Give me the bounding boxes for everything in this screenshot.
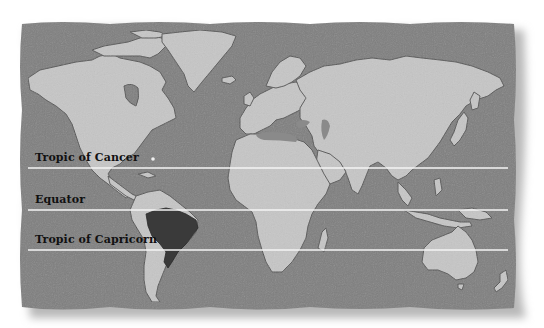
- equator-label: Equator: [35, 193, 85, 206]
- world-map-graphic: [0, 0, 544, 328]
- tropic-of-cancer-label: Tropic of Cancer: [35, 151, 139, 164]
- tropic-of-capricorn-label: Tropic of Capricorn: [35, 233, 157, 246]
- map-point: [151, 157, 155, 161]
- world-map: Tropic of Cancer Equator Tropic of Capri…: [0, 0, 544, 328]
